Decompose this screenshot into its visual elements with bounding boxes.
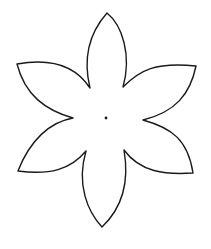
flower-diagram	[0, 0, 211, 249]
flower-outline	[17, 13, 196, 227]
center-dot	[105, 117, 108, 120]
